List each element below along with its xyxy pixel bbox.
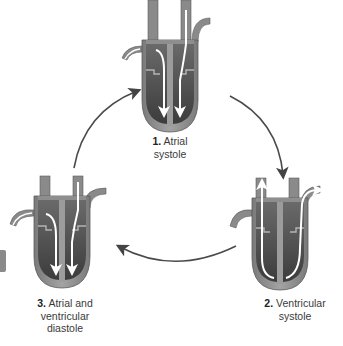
stage-2-name-line1: Ventricular [276,297,326,309]
heart-stage-2 [230,178,320,290]
cycle-arrow-3-to-1 [74,91,137,168]
diagram-graphics [0,0,343,346]
stage-3-name-line3: diastole [47,322,83,334]
stage-2-label: 2. Ventricular systole [247,297,343,322]
cycle-arrow-2-to-3 [120,246,236,261]
cycle-arrow-1-to-2 [230,96,283,175]
heart-stage-3 [10,176,106,288]
stage-3-number: 3. [37,297,46,309]
stage-2-name-line2: systole [279,310,312,322]
stage-3-name-line2: ventricular [41,310,89,322]
stage-3-name-line1: Atrial and [48,297,92,309]
cardiac-cycle-diagram: 1. Atrial systole 2. Ventricular systole… [0,0,343,346]
heart-stage-1 [122,0,210,132]
stage-3-label: 3. Atrial and ventricular diastole [20,297,110,335]
stage-2-number: 2. [264,297,273,309]
stage-1-number: 1. [152,135,161,147]
stage-1-label: 1. Atrial systole [130,135,210,160]
stage-1-name-line2: systole [154,148,187,160]
stage-1-name-line1: Atrial [164,135,188,147]
